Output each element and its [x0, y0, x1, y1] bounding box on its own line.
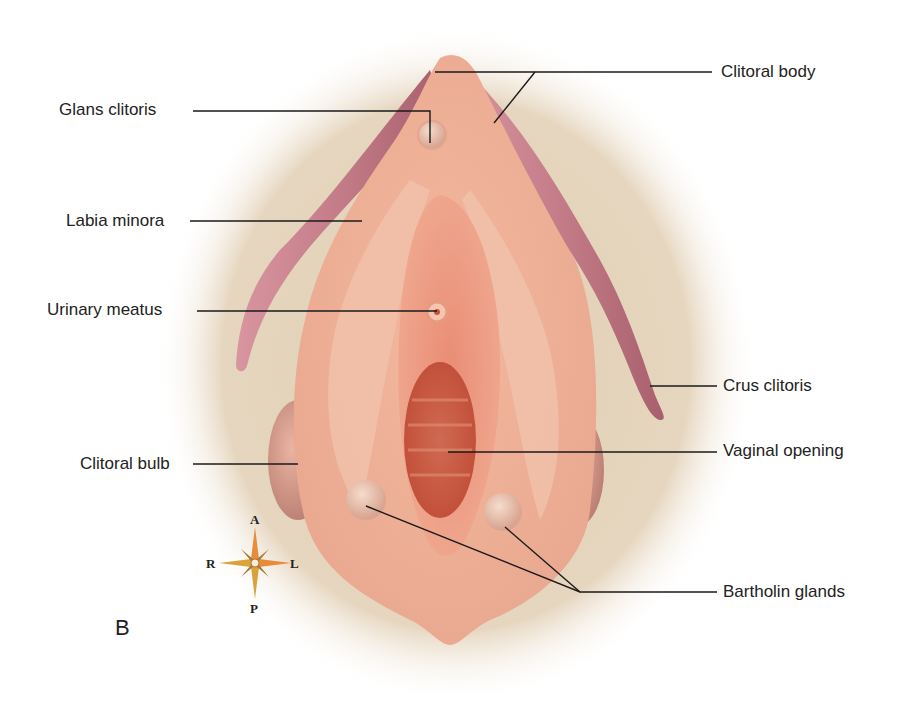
- compass-anterior: A: [250, 512, 259, 528]
- label-vaginal-opening: Vaginal opening: [723, 441, 844, 461]
- compass-left: L: [290, 556, 299, 572]
- anatomy-figure: Glans clitoris Labia minora Urinary meat…: [0, 0, 913, 717]
- label-clitoral-bulb: Clitoral bulb: [80, 454, 170, 474]
- label-urinary-meatus: Urinary meatus: [47, 300, 162, 320]
- panel-letter: B: [115, 615, 130, 641]
- label-bartholin-glands: Bartholin glands: [723, 582, 845, 602]
- bartholin-gland-right: [484, 493, 522, 531]
- label-crus-clitoris: Crus clitoris: [723, 376, 812, 396]
- glans-clitoris: [418, 121, 446, 149]
- compass-posterior: P: [250, 601, 258, 617]
- vaginal-opening: [404, 362, 476, 518]
- label-labia-minora: Labia minora: [66, 211, 164, 231]
- label-clitoral-body: Clitoral body: [721, 62, 816, 82]
- compass-right: R: [206, 556, 215, 572]
- bartholin-gland-left: [346, 480, 386, 520]
- label-glans-clitoris: Glans clitoris: [59, 100, 156, 120]
